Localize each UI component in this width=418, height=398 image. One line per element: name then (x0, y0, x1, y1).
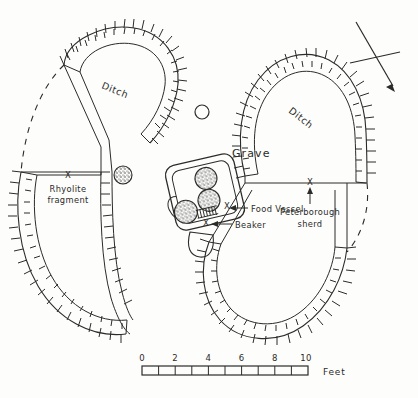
grave-label: Grave (232, 147, 271, 160)
food-vessel-label: Food Vessel (251, 204, 304, 214)
hachure-group-se (195, 239, 356, 345)
find-marker-rhyolite: X (65, 170, 71, 180)
projected-ditch-line-east (347, 183, 368, 252)
ditch-arc-northwest: Ditch (60, 19, 187, 147)
site-plan-figure: Ditch (0, 0, 418, 398)
rhyolite-fragment-label-line1: Rhyolite (50, 184, 87, 194)
beaker-label: Beaker (235, 220, 266, 230)
ditch-label-northwest: Ditch (100, 80, 130, 101)
ditch-arc-southwest: X Rhyolite fragment (8, 140, 133, 343)
peterborough-arrow-head (307, 187, 313, 194)
projected-ditch-line-west (21, 65, 64, 172)
scale-unit-label: Feet (323, 367, 346, 377)
post-hole-north (195, 105, 209, 119)
ditch-arc-northeast: Ditch (232, 48, 376, 183)
find-marker-food-vessel: X (224, 201, 230, 211)
north-arrow (350, 22, 400, 92)
peterborough-sherd-label-line2: sherd (298, 219, 323, 229)
scale-bar: 0 2 4 6 8 10 Feet (139, 353, 345, 377)
site-plan-svg: Ditch (0, 0, 418, 398)
scale-tick-0: 0 (139, 353, 145, 363)
find-marker-peterborough: X (307, 177, 313, 187)
scale-tick-6: 6 (239, 353, 245, 363)
food-vessel-arrow-head (229, 205, 236, 211)
find-marker-beaker: X (203, 218, 209, 228)
small-pit-south-of-grave (188, 232, 213, 257)
scale-tick-8: 8 (272, 353, 278, 363)
scale-tick-4: 4 (206, 353, 212, 363)
scale-tick-2: 2 (172, 353, 178, 363)
pit-west (114, 166, 132, 184)
hachure-group-nw (60, 19, 187, 144)
beaker-arrow-head (211, 221, 218, 227)
scale-tick-10: 10 (300, 353, 311, 363)
scale-bar-ticks (159, 366, 292, 375)
ditch-label-northeast: Ditch (287, 105, 316, 131)
rhyolite-fragment-label-line2: fragment (47, 195, 89, 205)
vessel-upper (193, 165, 219, 191)
